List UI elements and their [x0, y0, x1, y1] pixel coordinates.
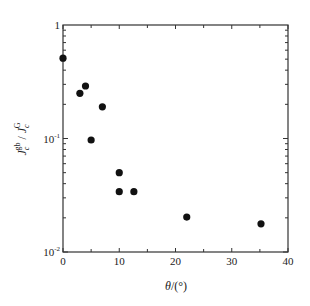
x-tick-labels: 010203040	[60, 255, 294, 267]
x-tick-label: 30	[226, 255, 238, 267]
y-label-sup2: G	[13, 122, 22, 128]
plot-frame	[63, 25, 288, 252]
data-point	[99, 103, 106, 110]
x-axis-label-unit: /(°)	[171, 279, 187, 293]
x-axis-label: θ/(°)	[165, 279, 187, 293]
plot-border	[63, 25, 288, 252]
data-point	[59, 55, 66, 62]
y-label-sub2: c	[22, 124, 31, 128]
x-tick-label: 20	[170, 255, 182, 267]
y-label-sub1: c	[22, 146, 31, 150]
data-point	[116, 169, 123, 176]
data-point	[82, 82, 89, 89]
y-label-sup1: gb	[13, 143, 22, 151]
data-points	[59, 55, 264, 228]
axis-ticks	[63, 25, 288, 252]
x-tick-label: 0	[60, 255, 66, 267]
data-point	[130, 188, 137, 195]
data-point	[183, 213, 190, 220]
y-tick-label: 1	[55, 19, 61, 31]
y-tick-label: 10-1	[43, 132, 60, 145]
x-tick-label: 10	[114, 255, 126, 267]
data-point	[116, 188, 123, 195]
x-tick-label: 40	[283, 255, 295, 267]
data-point	[257, 220, 264, 227]
y-tick-label: 10-2	[43, 245, 60, 258]
data-point	[76, 90, 83, 97]
y-tick-labels: 10-210-11	[43, 19, 60, 258]
y-label-sep: /	[15, 133, 29, 142]
y-axis-label: Jcgb / JcG	[13, 122, 31, 155]
scatter-chart: 010203040 10-210-11 θ/(°) Jcgb / JcG	[0, 0, 310, 306]
data-point	[88, 136, 95, 143]
